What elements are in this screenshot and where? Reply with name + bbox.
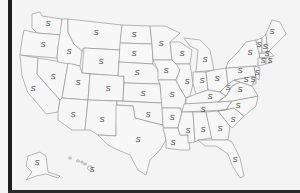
state-label-al: S — [200, 125, 205, 134]
state-label-vt: S — [256, 40, 261, 49]
state-label-wy: S — [98, 57, 103, 66]
state-label-wv: S — [225, 83, 230, 92]
state-label-ne: S — [134, 68, 139, 77]
state-label-mo: S — [169, 90, 174, 99]
state-label-id: S — [66, 47, 71, 56]
state-label-nd: S — [131, 30, 136, 39]
state-label-fl: S — [232, 155, 237, 164]
state-label-ca: S — [30, 84, 35, 93]
state-label-mt: S — [93, 28, 98, 37]
state-me[interactable] — [266, 20, 286, 52]
state-label-il: S — [184, 77, 189, 86]
state-label-oh: S — [214, 74, 219, 83]
state-label-nv: S — [50, 72, 55, 81]
state-label-ms: S — [185, 126, 190, 135]
us-map: SSSSSSSSSSSSSSSSSSSSSSSSSSSSSSSSSSSSSSSS… — [0, 0, 300, 193]
state-label-ga: S — [217, 124, 222, 133]
state-label-wa: S — [45, 19, 50, 28]
state-label-mi: S — [202, 55, 207, 64]
state-label-ri: S — [267, 56, 272, 65]
state-label-ok: S — [145, 110, 150, 119]
state-label-ct: S — [260, 56, 265, 65]
state-label-in: S — [199, 76, 204, 85]
state-label-ia: S — [163, 66, 168, 75]
state-label-la: S — [170, 138, 175, 147]
state-label-ak: S — [34, 158, 39, 167]
state-ny[interactable] — [226, 40, 260, 68]
state-label-az: S — [70, 110, 75, 119]
state-label-hi: S — [89, 165, 94, 174]
state-shapes — [20, 12, 286, 180]
state-label-ar: S — [169, 113, 174, 122]
state-label-de: S — [250, 75, 255, 84]
state-label-me: S — [269, 27, 274, 36]
state-label-co: S — [105, 84, 110, 93]
frame-bottom-border — [8, 190, 300, 193]
state-label-sc: S — [230, 115, 235, 124]
state-label-ky: S — [207, 92, 212, 101]
state-label-wi: S — [179, 49, 184, 58]
state-label-va: S — [237, 85, 242, 94]
state-label-mn: S — [158, 39, 163, 48]
state-label-ny: S — [247, 48, 252, 57]
state-label-nm: S — [99, 115, 104, 124]
state-label-tx: S — [135, 135, 140, 144]
state-label-tn: S — [200, 105, 205, 114]
state-label-or: S — [40, 40, 45, 49]
state-label-sd: S — [131, 49, 136, 58]
state-label-ut: S — [75, 78, 80, 87]
state-label-pa: S — [237, 66, 242, 75]
state-label-ks: S — [140, 89, 145, 98]
state-label-md: S — [243, 75, 248, 84]
state-ak[interactable] — [26, 152, 60, 180]
state-label-nc: S — [235, 101, 240, 110]
